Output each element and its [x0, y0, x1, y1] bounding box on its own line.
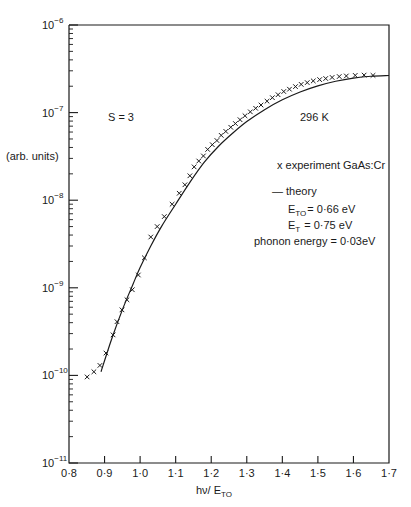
svg-text:0·9: 0·9 [97, 467, 113, 479]
legend-experiment: x experiment GaAs:Cr [277, 159, 386, 171]
legend-theory: — theory [272, 185, 317, 197]
experiment-data-point [170, 202, 175, 207]
experiment-data-point [259, 103, 264, 108]
param-phonon-energy: phonon energy = 0·03eV [254, 235, 376, 247]
experiment-data-point [92, 369, 97, 374]
experiment-data-point [162, 214, 167, 219]
log-scale-chart: 10−1110−1010−910−810−710−6 0·80·91·01·11… [0, 0, 411, 507]
svg-text:1·3: 1·3 [239, 467, 255, 479]
experiment-data-point [192, 165, 197, 170]
experiment-data-point [299, 82, 304, 87]
experiment-data-point [219, 133, 224, 138]
param-et: ET= 0·75 eV [288, 219, 353, 234]
experiment-data-point [196, 159, 201, 164]
experiment-data-point [265, 99, 270, 104]
experiment-data-point [287, 87, 292, 92]
experiment-data-point [270, 95, 275, 100]
experiment-data-point [205, 147, 210, 152]
experiment-data-point [238, 117, 243, 122]
experiment-data-point [177, 191, 182, 196]
experiment-data-point [224, 129, 229, 134]
experiment-data-point [337, 74, 342, 79]
experiment-data-point [323, 76, 328, 81]
experiment-data-point [243, 113, 248, 118]
experiment-data-point [344, 74, 349, 79]
svg-text:1·0: 1·0 [132, 467, 148, 479]
experiment-data-point [228, 125, 233, 130]
experiment-data-point [210, 142, 215, 147]
experiment-data-point [233, 121, 238, 126]
experiment-data-point [311, 79, 316, 84]
experiment-data-point [330, 75, 335, 80]
experiment-data-point [353, 73, 358, 78]
experiment-data-point [148, 235, 153, 240]
legend: x experiment GaAs:Cr — theory ETO= 0·66 … [254, 159, 386, 247]
param-eto: ETO= 0·66 eV [288, 203, 356, 218]
experiment-data-point [293, 84, 298, 89]
experiment-data-point [85, 375, 90, 380]
y-axis-ticks: 10−1110−1010−910−810−710−6 [42, 16, 78, 469]
experiment-data-point [253, 106, 258, 111]
experiment-data-point [188, 173, 193, 178]
temperature-label: 296 K [300, 111, 329, 123]
svg-text:1·7: 1·7 [381, 467, 397, 479]
svg-text:1·6: 1·6 [345, 467, 361, 479]
svg-text:1·1: 1·1 [168, 467, 184, 479]
svg-text:1·5: 1·5 [310, 467, 326, 479]
x-axis-label: hν/ ETO [196, 484, 232, 499]
experiment-data-point [98, 363, 103, 368]
svg-text:10−10: 10−10 [42, 366, 68, 381]
svg-text:10−8: 10−8 [42, 191, 64, 206]
s-parameter-label: S = 3 [108, 111, 134, 123]
experiment-data-point [155, 224, 160, 229]
experiment-data-point [248, 110, 253, 115]
experiment-data-point [201, 154, 206, 159]
experiment-data-point [281, 89, 286, 94]
experiment-data-point [317, 77, 322, 82]
y-axis-label: (arb. units) [6, 150, 59, 162]
experiment-data-point [276, 92, 281, 97]
experiment-data-point [215, 138, 220, 143]
svg-text:10−9: 10−9 [42, 279, 64, 294]
experiment-data-point [371, 73, 376, 78]
svg-text:10−7: 10−7 [42, 104, 64, 119]
svg-text:10−6: 10−6 [42, 16, 64, 31]
svg-text:1·4: 1·4 [274, 467, 290, 479]
x-axis-ticks: 0·80·91·01·11·21·31·41·51·61·7 [61, 456, 397, 479]
experiment-data-point [305, 80, 310, 85]
svg-text:0·8: 0·8 [61, 467, 77, 479]
experiment-data-point [183, 182, 188, 187]
svg-text:1·2: 1·2 [203, 467, 219, 479]
